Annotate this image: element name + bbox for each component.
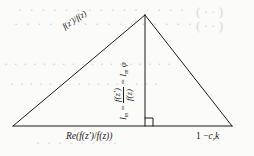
right-hypotenuse-line [145, 15, 232, 126]
altitude-left-im: Im [118, 113, 129, 120]
altitude-equals-left: = [118, 105, 128, 110]
altitude-label: Im = f(z′) f(z) = Im φ [112, 62, 134, 120]
altitude-right-im: Im [118, 70, 129, 77]
altitude-right-im-symbol: I [118, 74, 128, 77]
base-re-numerator: f(z′) [79, 131, 94, 141]
base-right-label: 1 −c,k [196, 131, 219, 141]
altitude-fraction-numerator: f(z′) [112, 87, 122, 103]
base-right-k: k [215, 131, 219, 141]
base-re-operator: Re [66, 131, 76, 141]
altitude-left-im-subscript: m [122, 113, 128, 117]
altitude-phi: φ [118, 62, 128, 67]
base-re-denominator: f(z) [97, 131, 110, 141]
altitude-right-im-subscript: m [122, 70, 128, 74]
triangle-figure: · · · · · · · · · · · · · · · · · · · · … [0, 0, 254, 156]
right-angle-marker [145, 118, 153, 126]
altitude-fraction-denominator: f(z) [124, 88, 134, 102]
base-right-one: 1 [196, 131, 201, 141]
base-re-close-paren: ) [109, 131, 112, 141]
altitude-left-im-symbol: I [118, 117, 128, 120]
base-left-label: Re(f(z′)/f(z)) [66, 131, 112, 141]
altitude-equals-right: = [118, 79, 128, 84]
altitude-fraction: f(z′) f(z) [112, 87, 134, 103]
